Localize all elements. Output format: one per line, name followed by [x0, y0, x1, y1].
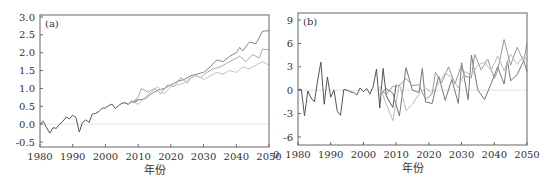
x-tick-label: 2030: [449, 149, 474, 160]
x-axis-title: 年份: [402, 161, 424, 175]
x-tick-label: 2000: [93, 151, 118, 162]
panel-b: -6-3036919801990200020102020203020402050…: [273, 13, 540, 175]
x-tick-label: 1980: [285, 149, 310, 160]
plot-frame: [40, 15, 269, 147]
x-tick-label: 2030: [191, 151, 216, 162]
y-tick-label: 3: [287, 61, 293, 72]
y-tick-label: 6: [287, 38, 293, 49]
series-group: [40, 31, 269, 134]
x-tick-label: 1980: [27, 151, 52, 162]
x-tick-label: 2010: [383, 149, 408, 160]
series-line-scenario-3: [380, 54, 527, 120]
x-tick-label: 1990: [60, 151, 85, 162]
series-line-scenario-low: [132, 62, 269, 105]
y-tick-label: 0: [287, 85, 293, 96]
series-line-observed: [40, 99, 138, 133]
x-tick-label: 2040: [482, 149, 507, 160]
series-line-scenario-1: [380, 55, 527, 116]
y-tick-label: 3.0: [19, 12, 35, 23]
x-tick-label: 2020: [158, 151, 183, 162]
x-axis-title: 年份: [144, 163, 166, 177]
y-tick-label: 1.0: [19, 83, 35, 94]
x-tick-label: 2010: [125, 151, 150, 162]
series-line-scenario-high: [132, 31, 269, 103]
x-tick-label: 2020: [416, 149, 441, 160]
x-tick-label: 1990: [318, 149, 343, 160]
y-tick-label: 2.0: [19, 47, 35, 58]
x-tick-label: 2050: [514, 149, 539, 160]
panel-a: -0.50.00.51.01.52.02.53.0198019902000201…: [16, 12, 282, 178]
y-tick-label: 9: [287, 15, 293, 26]
y-tick-label: 0.5: [19, 101, 35, 112]
series-group: [298, 40, 527, 121]
x-tick-label: 2000: [351, 149, 376, 160]
y-tick-label: -0.5: [16, 137, 35, 148]
series-line-observed: [298, 62, 396, 116]
x-tick-label: 2040: [224, 151, 249, 162]
y-tick-label: -6: [283, 132, 293, 143]
y-tick-label: -3: [283, 108, 293, 119]
chart-figure: -0.50.00.51.01.52.02.53.0198019902000201…: [0, 0, 546, 183]
panel-label: (a): [45, 18, 59, 29]
y-tick-label: 0.0: [19, 119, 35, 130]
y-tick-label: 1.5: [19, 65, 35, 76]
panel-label: (b): [303, 16, 317, 27]
y-tick-label: 2.5: [19, 29, 35, 40]
clipped-tick-label: 0: [273, 149, 279, 160]
series-line-scenario-mid: [132, 49, 269, 103]
